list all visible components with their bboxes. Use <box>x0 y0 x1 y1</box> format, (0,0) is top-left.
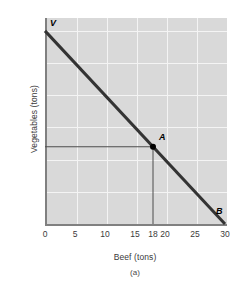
gridline-vertical <box>77 18 78 224</box>
gridline-horizontal <box>47 127 227 128</box>
gridline-horizontal <box>47 31 227 32</box>
figure-caption: (a) <box>45 268 225 277</box>
gridline-vertical <box>137 18 138 224</box>
gridline-horizontal <box>47 95 227 96</box>
x-tick-label: 25 <box>180 230 210 239</box>
gridline-horizontal <box>47 192 227 193</box>
point-label-A: A <box>159 133 166 142</box>
gridline-vertical <box>197 18 198 224</box>
gridline-horizontal <box>47 160 227 161</box>
gridline-vertical <box>107 18 108 224</box>
x-tick-label: 5 <box>60 230 90 239</box>
x-tick-label: 20 <box>150 230 180 239</box>
x-tick-label: 10 <box>90 230 120 239</box>
x-tick-label: 0 <box>30 230 60 239</box>
point-label-B: B <box>216 207 223 216</box>
point-label-V: V <box>50 19 56 28</box>
chart-figure: Vegetables (tons) 5101215202530 VAB 0510… <box>0 0 245 283</box>
x-axis-title: Beef (tons) <box>45 252 225 262</box>
y-axis-title: Vegetables (tons) <box>29 39 39 199</box>
gridline-horizontal <box>47 63 227 64</box>
gridlines <box>47 18 227 224</box>
x-tick-label: 30 <box>210 230 240 239</box>
gridline-vertical <box>167 18 168 224</box>
plot-area <box>45 18 227 226</box>
